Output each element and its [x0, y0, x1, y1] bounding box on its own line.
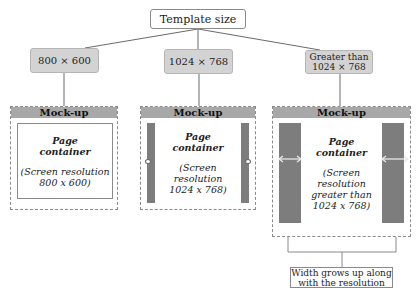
template-size-node: Template size [150, 9, 246, 29]
note-line: with the resolution [298, 278, 385, 288]
left-handle-icon [145, 159, 151, 164]
width-arrows-icon [273, 107, 412, 238]
page-title: Page [52, 135, 78, 146]
growth-note: Width grows up along with the resolution [290, 267, 393, 288]
resolution-text: 1024 x 768) [169, 184, 226, 195]
resolution-text: (Screen resolution [20, 166, 109, 177]
size-label-line1: Greater than [310, 52, 369, 62]
resolution-text: (Screen resolution [155, 162, 241, 184]
size-node-1024x768: 1024 × 768 [164, 49, 233, 74]
size-label-line2: 1024 × 768 [312, 62, 365, 72]
size-label: 800 × 600 [38, 55, 91, 66]
size-label: 1024 × 768 [169, 56, 228, 67]
right-handle-icon [245, 159, 251, 164]
mockup-1024x768: Mock-up Page container (Screen resolutio… [140, 106, 256, 210]
mockup-header: Mock-up [141, 107, 255, 118]
page-title: container [172, 142, 223, 153]
mockup-greater: Mock-up Page container (Screen resolutio… [272, 106, 411, 237]
resolution-text: 800 x 600) [39, 177, 90, 188]
mockup-header: Mock-up [11, 107, 117, 118]
note-line: Width grows up along [291, 268, 391, 278]
template-size-label: Template size [160, 14, 236, 25]
page-container: Page container (Screen resolution 1024 x… [155, 123, 241, 203]
size-node-greater: Greater than 1024 × 768 [305, 50, 373, 74]
size-node-800x600: 800 × 600 [30, 48, 99, 73]
page-title: container [39, 146, 90, 157]
page-container: Page container (Screen resolution 800 x … [17, 123, 113, 199]
mockup-800x600: Mock-up Page container (Screen resolutio… [10, 106, 118, 210]
page-title: Page [185, 131, 211, 142]
